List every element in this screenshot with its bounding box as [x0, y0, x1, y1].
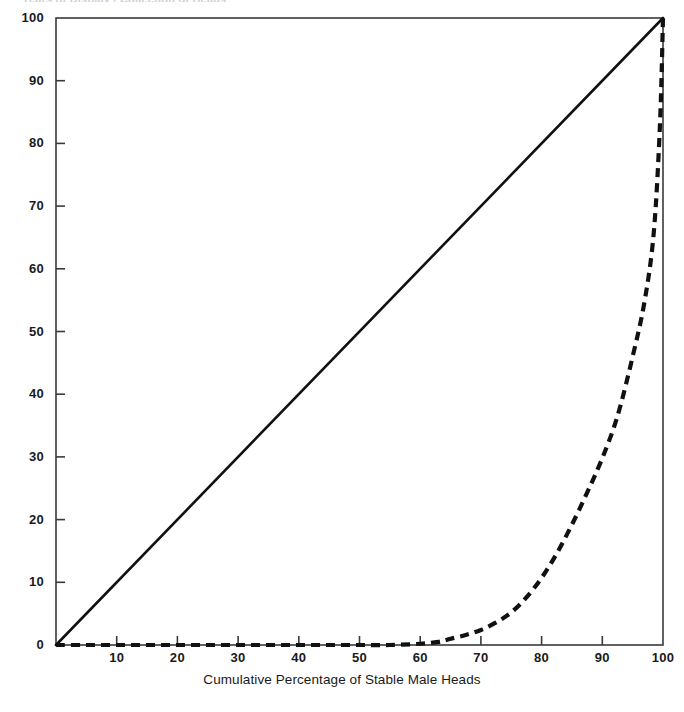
y-tick-label: 100: [2, 10, 44, 25]
x-tick-label: 70: [461, 650, 501, 665]
y-tick-label: 50: [2, 324, 44, 339]
x-tick-label: 90: [582, 650, 622, 665]
x-tick-label: 40: [279, 650, 319, 665]
y-tick-label: 80: [2, 135, 44, 150]
lorenz-curve-figure: Years of Display / Collection of Heads 0…: [0, 0, 684, 712]
clipped-header-text: Years of Display / Collection of Heads: [22, 0, 226, 2]
y-tick-label: 0: [2, 637, 44, 652]
y-tick-label: 20: [2, 512, 44, 527]
y-tick-label: 10: [2, 574, 44, 589]
x-tick-label: 30: [218, 650, 258, 665]
x-tick-label: 10: [97, 650, 137, 665]
y-tick-label: 60: [2, 261, 44, 276]
x-tick-label: 50: [340, 650, 380, 665]
x-tick-label: 100: [643, 650, 683, 665]
x-tick-label: 80: [522, 650, 562, 665]
y-tick-label: 90: [2, 73, 44, 88]
y-tick-label: 70: [2, 198, 44, 213]
x-axis-title: Cumulative Percentage of Stable Male Hea…: [0, 672, 684, 687]
x-tick-label: 60: [400, 650, 440, 665]
x-tick-label: 20: [157, 650, 197, 665]
y-tick-label: 30: [2, 449, 44, 464]
y-tick-label: 40: [2, 386, 44, 401]
plot-canvas: [0, 0, 684, 712]
